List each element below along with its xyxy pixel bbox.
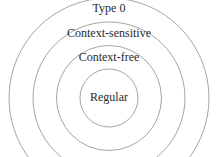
regular-label: Regular — [90, 90, 128, 104]
context-sensitive-label: Context-sensitive — [67, 26, 151, 40]
type-0-circle — [9, 0, 209, 157]
chomsky-hierarchy-diagram: Type 0 Context-sensitive Context-free Re… — [0, 0, 218, 157]
type-0-label: Type 0 — [93, 1, 126, 15]
context-free-label: Context-free — [79, 50, 140, 64]
